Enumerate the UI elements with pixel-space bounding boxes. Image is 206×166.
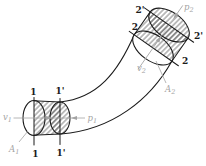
label-p1: p1 — [88, 113, 98, 125]
p1-arrowhead-icon — [71, 116, 77, 120]
label-p2: p2 — [184, 2, 194, 14]
label-1-prime-top: 1' — [55, 86, 64, 96]
figure-canvas: 1 1 1' 1' 2 2 2' 2' v1 p1 A1 v2 p2 A2 — [0, 0, 206, 166]
label-v1: v1 — [3, 112, 12, 124]
a1-leader-line — [19, 131, 28, 142]
label-1-prime-bottom: 1' — [56, 148, 65, 158]
inlet-element — [14, 98, 86, 146]
label-a2: A2 — [164, 84, 175, 96]
label-2-upper: 2 — [132, 22, 138, 32]
label-a1: A1 — [8, 144, 19, 156]
label-1-bottom: 1 — [32, 149, 38, 159]
stream-tube-figure: 1 1 1' 1' 2 2 2' 2' v1 p1 A1 v2 p2 A2 — [0, 0, 206, 166]
label-2-prime-right: 2' — [194, 31, 203, 41]
label-1-top: 1 — [30, 87, 36, 97]
label-2-prime-top: 2' — [135, 5, 144, 15]
label-v2: v2 — [137, 63, 146, 75]
tube-wall-upper — [60, 35, 134, 102]
label-2-lower: 2 — [182, 56, 188, 66]
